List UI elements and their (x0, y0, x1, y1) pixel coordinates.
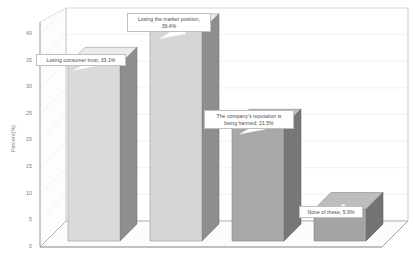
data-label-none-of-these: None of these, 5.9% (299, 206, 363, 218)
y-tick-35: 35 (18, 58, 32, 63)
chart-canvas (0, 0, 415, 273)
bar-3-front (232, 126, 284, 241)
bar-1-side (120, 47, 137, 241)
column-chart-3d: 40 35 30 25 20 15 10 5 0 Percent(%) Losi… (0, 0, 415, 273)
y-tick-5: 5 (18, 217, 32, 222)
y-tick-30: 30 (18, 84, 32, 89)
y-tick-10: 10 (18, 191, 32, 196)
bar-2-front (150, 31, 202, 241)
y-tick-40: 40 (18, 31, 32, 36)
data-label-losing-consumer-trust: Losing consumer trust; 33.1% (36, 54, 126, 66)
bar-losing-consumer-trust (68, 47, 137, 241)
y-tick-15: 15 (18, 164, 32, 169)
y-axis-title: Percent(%) (10, 125, 16, 152)
y-tick-0: 0 (18, 244, 32, 249)
y-tick-25: 25 (18, 111, 32, 116)
data-label-losing-market-position: Losing the market position, 39.4% (127, 13, 211, 32)
y-tick-20: 20 (18, 137, 32, 142)
data-label-company-reputation-harmed: The company's reputation is being harmed… (204, 110, 294, 129)
bar-1-front (68, 64, 120, 241)
